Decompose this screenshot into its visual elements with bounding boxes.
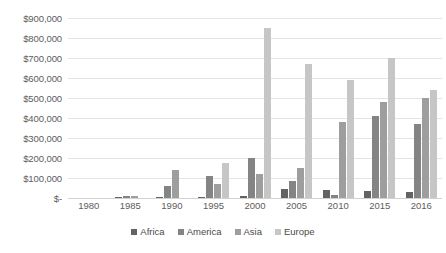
x-axis-tick-label: 1985 xyxy=(110,200,152,218)
x-axis-tick-label: 2015 xyxy=(359,200,401,218)
bar-europe-2000 xyxy=(264,28,271,198)
axis-baseline xyxy=(68,198,442,199)
bar-group xyxy=(359,18,401,198)
x-axis-tick-label: 2000 xyxy=(234,200,276,218)
bar-africa-1985 xyxy=(115,197,122,198)
bar-africa-2010 xyxy=(323,190,330,198)
legend-item-europe[interactable]: Europe xyxy=(275,226,315,237)
bar-group xyxy=(276,18,318,198)
legend-item-africa[interactable]: Africa xyxy=(131,226,164,237)
legend-label: Africa xyxy=(140,226,164,237)
bar-america-1995 xyxy=(206,176,213,198)
bar-asia-2016 xyxy=(422,98,429,198)
bar-group xyxy=(234,18,276,198)
y-axis-tick-label: $600,000 xyxy=(23,73,62,84)
y-axis-tick-label: $500,000 xyxy=(23,93,62,104)
bar-group xyxy=(151,18,193,198)
bar-europe-2016 xyxy=(430,90,437,198)
legend-swatch-icon xyxy=(131,229,137,235)
bar-europe-2005 xyxy=(305,64,312,198)
bar-group xyxy=(193,18,235,198)
bar-groups xyxy=(68,18,442,198)
x-axis-tick-label: 2016 xyxy=(401,200,443,218)
bar-africa-2000 xyxy=(240,196,247,198)
y-axis-tick-label: $100,000 xyxy=(23,173,62,184)
bar-group xyxy=(68,18,110,198)
bar-africa-2016 xyxy=(406,192,413,198)
bar-america-1990 xyxy=(164,186,171,198)
bar-america-2016 xyxy=(414,124,421,198)
bar-europe-1995 xyxy=(222,163,229,198)
legend-swatch-icon xyxy=(178,229,184,235)
x-axis: 198019851990199520002005201020152016 xyxy=(68,200,442,218)
bar-asia-1990 xyxy=(172,170,179,198)
y-axis-tick-label: $400,000 xyxy=(23,113,62,124)
x-axis-tick-label: 2010 xyxy=(317,200,359,218)
legend-label: Europe xyxy=(284,226,315,237)
bar-africa-2015 xyxy=(364,191,371,198)
bar-america-2000 xyxy=(248,158,255,198)
legend: AfricaAmericaAsiaEurope xyxy=(0,226,446,237)
bar-europe-2010 xyxy=(347,80,354,198)
bar-africa-1995 xyxy=(198,197,205,198)
bar-africa-2005 xyxy=(281,189,288,198)
bar-america-1985 xyxy=(123,196,130,198)
legend-swatch-icon xyxy=(235,229,241,235)
y-axis-tick-label: $800,000 xyxy=(23,33,62,44)
y-axis-tick-label: $900,000 xyxy=(23,13,62,24)
bar-america-2005 xyxy=(289,181,296,198)
bar-america-2015 xyxy=(372,116,379,198)
plot-area xyxy=(68,18,442,198)
y-axis-tick-label: $200,000 xyxy=(23,153,62,164)
bar-asia-1985 xyxy=(131,196,138,198)
y-axis: $900,000$800,000$700,000$600,000$500,000… xyxy=(0,18,66,198)
y-axis-tick-label: $- xyxy=(54,193,62,204)
bar-asia-2010 xyxy=(339,122,346,198)
bar-chart: $900,000$800,000$700,000$600,000$500,000… xyxy=(0,0,446,253)
x-axis-tick-label: 1980 xyxy=(68,200,110,218)
y-axis-tick-label: $300,000 xyxy=(23,133,62,144)
bar-asia-2000 xyxy=(256,174,263,198)
bar-america-2010 xyxy=(331,195,338,198)
legend-label: America xyxy=(187,226,222,237)
bar-group xyxy=(401,18,443,198)
bar-europe-2015 xyxy=(388,58,395,198)
bar-africa-1990 xyxy=(156,197,163,198)
bar-group xyxy=(317,18,359,198)
bar-group xyxy=(110,18,152,198)
x-axis-tick-label: 1995 xyxy=(193,200,235,218)
x-axis-tick-label: 1990 xyxy=(151,200,193,218)
legend-swatch-icon xyxy=(275,229,281,235)
x-axis-tick-label: 2005 xyxy=(276,200,318,218)
legend-label: Asia xyxy=(244,226,262,237)
bar-asia-2015 xyxy=(380,102,387,198)
bar-asia-2005 xyxy=(297,168,304,198)
legend-item-asia[interactable]: Asia xyxy=(235,226,262,237)
y-axis-tick-label: $700,000 xyxy=(23,53,62,64)
legend-item-america[interactable]: America xyxy=(178,226,222,237)
bar-asia-1995 xyxy=(214,184,221,198)
